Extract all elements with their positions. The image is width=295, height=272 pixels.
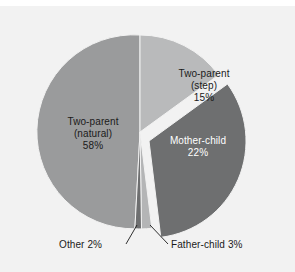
- slice-label-line-3: 58%: [46, 140, 140, 152]
- slice-label-line-3: 15%: [163, 92, 245, 104]
- pie-chart-plot-area: Two-parent (natural) 58% Two-parent (ste…: [0, 6, 295, 272]
- slice-label-line-1: Mother-child: [152, 135, 244, 147]
- slice-label-mother-child: Mother-child 22%: [152, 135, 244, 159]
- slice-label-line-2: (natural): [46, 128, 140, 140]
- slice-label-two-parent-natural: Two-parent (natural) 58%: [46, 116, 140, 151]
- clipped-header-text: [0, 0, 295, 3]
- callout-label-father-child: Father-child 3%: [171, 239, 281, 251]
- callout-label-text: Father-child 3%: [171, 239, 281, 251]
- slice-label-line-2: (step): [163, 80, 245, 92]
- callout-label-other: Other 2%: [59, 239, 129, 251]
- pie-chart-figure: Two-parent (natural) 58% Two-parent (ste…: [0, 0, 295, 272]
- callout-label-text: Other 2%: [59, 239, 129, 251]
- slice-label-two-parent-step: Two-parent (step) 15%: [163, 68, 245, 103]
- slice-label-line-1: Two-parent: [46, 116, 140, 128]
- pie-chart-svg: [0, 6, 295, 272]
- slice-label-line-1: Two-parent: [163, 68, 245, 80]
- slice-label-line-2: 22%: [152, 147, 244, 159]
